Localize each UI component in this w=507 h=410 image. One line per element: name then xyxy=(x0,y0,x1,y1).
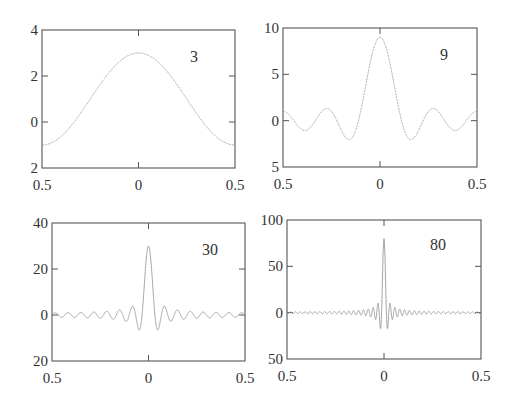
dirichlet-kernel-charts: 42020.500.53105050.500.5940200200.500.53… xyxy=(0,0,507,410)
y-tick-label: 5 xyxy=(272,66,280,82)
y-tick-label: 5 xyxy=(272,159,280,175)
y-tick-label: 4 xyxy=(31,22,39,38)
y-tick-label: 0 xyxy=(41,307,49,323)
y-tick-label: 0 xyxy=(276,305,284,321)
y-tick-label: 50 xyxy=(268,258,283,274)
y-tick-label: 2 xyxy=(31,68,39,84)
x-tick-label: 0.5 xyxy=(236,370,255,386)
subplot-n3: 42020.500.53 xyxy=(31,22,245,193)
x-tick-label: 0.5 xyxy=(278,368,297,384)
subplot-n30: 40200200.500.530 xyxy=(33,215,254,386)
n-annotation: 80 xyxy=(430,236,446,253)
y-tick-label: 100 xyxy=(261,212,284,228)
y-tick-label: 0 xyxy=(31,114,39,130)
x-tick-label: 0 xyxy=(135,177,143,193)
n-annotation: 30 xyxy=(202,241,218,258)
y-tick-label: 40 xyxy=(33,215,48,231)
x-tick-label: 0 xyxy=(380,368,388,384)
subplot-n80: 100500500.500.580 xyxy=(261,212,491,384)
x-tick-label: 0 xyxy=(376,176,384,192)
n-annotation: 9 xyxy=(440,46,448,63)
kernel-curve xyxy=(287,239,481,329)
y-tick-label: 50 xyxy=(268,351,283,367)
y-tick-label: 2 xyxy=(31,160,39,176)
x-tick-label: 0.5 xyxy=(274,176,293,192)
plot-frame xyxy=(42,30,235,168)
x-tick-label: 0.5 xyxy=(226,177,245,193)
y-tick-label: 20 xyxy=(33,353,48,369)
x-tick-label: 0.5 xyxy=(33,177,52,193)
x-tick-label: 0.5 xyxy=(472,368,491,384)
y-tick-label: 0 xyxy=(272,113,280,129)
x-tick-label: 0 xyxy=(145,370,153,386)
subplot-n9: 105050.500.59 xyxy=(264,20,486,192)
y-tick-label: 10 xyxy=(264,20,279,36)
x-tick-label: 0.5 xyxy=(43,370,62,386)
kernel-curve xyxy=(42,53,235,145)
n-annotation: 3 xyxy=(190,48,198,65)
x-tick-label: 0.5 xyxy=(468,176,487,192)
kernel-curve xyxy=(52,246,245,330)
y-tick-label: 20 xyxy=(33,261,48,277)
